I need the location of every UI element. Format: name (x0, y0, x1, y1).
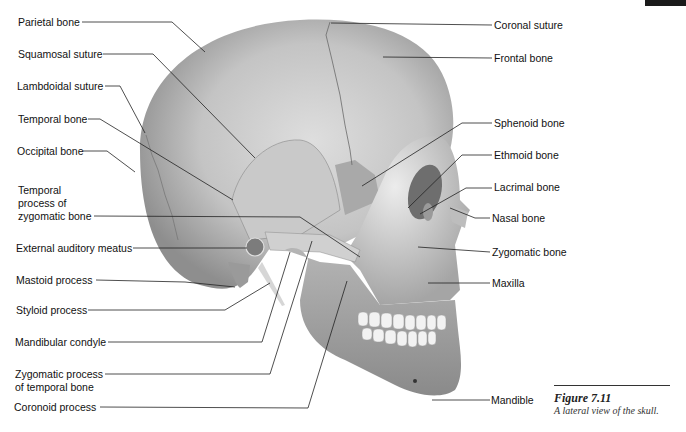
corner-tab (645, 0, 686, 6)
label-nasal-bone: Nasal bone (492, 212, 545, 225)
label-maxilla: Maxilla (492, 277, 525, 290)
auditory-meatus (246, 238, 264, 256)
label-styloid-process: Styloid process (16, 304, 87, 317)
label-mandible: Mandible (491, 394, 534, 407)
skull-diagram: Parietal bone Squamosal suture Lambdoida… (0, 0, 686, 432)
label-zygomatic-bone: Zygomatic bone (492, 246, 567, 259)
label-parietal-bone: Parietal bone (18, 16, 80, 29)
label-sphenoid-bone: Sphenoid bone (494, 117, 565, 130)
label-coronal-suture: Coronal suture (494, 19, 563, 32)
label-mandibular-condyle: Mandibular condyle (15, 336, 106, 349)
figure-caption: A lateral view of the skull. (554, 405, 659, 416)
label-lacrimal-bone: Lacrimal bone (494, 181, 560, 194)
label-temporal-bone: Temporal bone (18, 113, 87, 126)
label-zygomatic-process-of-temporal-bone: Zygomatic process of temporal bone (15, 368, 103, 394)
label-ethmoid-bone: Ethmoid bone (494, 149, 559, 162)
caption-rule (554, 385, 670, 386)
label-temporal-process-of-zygomatic-bone: Temporal process of zygomatic bone (18, 184, 92, 223)
lacrimal-fossa (423, 203, 433, 221)
label-squamosal-suture: Squamosal suture (18, 48, 103, 61)
label-occipital-bone: Occipital bone (17, 145, 84, 158)
label-lambdoidal-suture: Lambdoidal suture (17, 80, 103, 93)
label-frontal-bone: Frontal bone (494, 52, 553, 65)
label-coronoid-process: Coronoid process (14, 401, 96, 414)
label-mastoid-process: Mastoid process (16, 274, 92, 287)
styloid-shape (258, 262, 285, 306)
label-external-auditory-meatus: External auditory meatus (16, 242, 132, 255)
figure-number: Figure 7.11 (554, 391, 611, 406)
mental-foramen (413, 379, 417, 383)
